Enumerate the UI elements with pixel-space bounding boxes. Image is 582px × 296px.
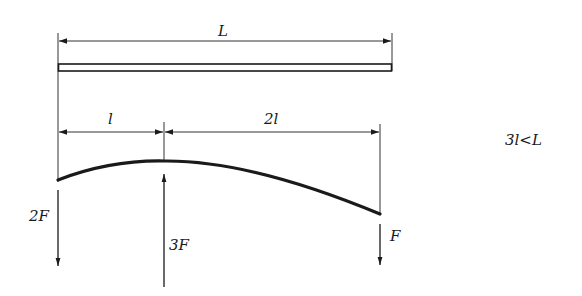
deflected-beam-curve [58, 161, 380, 214]
label-F: F [389, 227, 401, 245]
label-2l: 2l [263, 110, 279, 128]
label-L: L [217, 22, 228, 40]
label-l: l [108, 110, 113, 128]
straight-beam [59, 64, 392, 71]
label-2F: 2F [28, 207, 50, 225]
beam-diagram: L l 2l 2F 3F F 3l<L [0, 0, 582, 296]
condition-text: 3l<L [505, 131, 542, 149]
label-3F: 3F [169, 236, 190, 254]
